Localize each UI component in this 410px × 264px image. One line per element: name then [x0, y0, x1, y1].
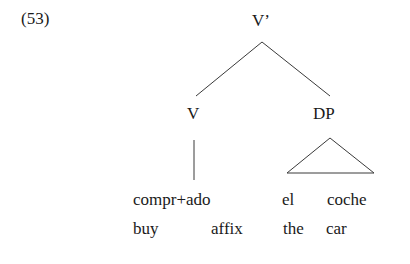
terminal-determiner: el — [282, 191, 294, 208]
branch-vbar-to-v — [196, 42, 262, 96]
node-vbar: V’ — [252, 12, 270, 29]
dp-triangle — [287, 138, 374, 173]
branch-vbar-to-dp — [262, 42, 330, 96]
gloss-affix: affix — [211, 220, 243, 237]
syntax-tree — [0, 0, 410, 264]
gloss-the: the — [283, 220, 304, 237]
terminal-verb: compr+ado — [133, 191, 211, 208]
node-dp: DP — [313, 105, 335, 122]
terminal-noun: coche — [327, 191, 367, 208]
gloss-buy: buy — [133, 220, 159, 237]
node-v: V — [187, 105, 199, 122]
gloss-car: car — [326, 220, 347, 237]
